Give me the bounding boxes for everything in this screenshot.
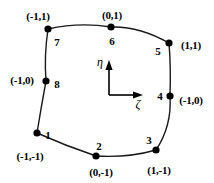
node-number-2: 2 <box>96 141 102 152</box>
zeta-axis-label: ζ <box>136 98 141 110</box>
node-number-4: 4 <box>157 91 163 102</box>
node-number-8: 8 <box>54 79 60 90</box>
element-node-diagram: 1 2 3 4 5 6 7 8 (-1,-1) (0,-1) (1,-1) (-… <box>0 0 214 183</box>
node-dot-7 <box>44 25 51 32</box>
node-dot-8 <box>42 77 49 84</box>
eta-axis-label: η <box>97 56 103 68</box>
node-number-7: 7 <box>54 37 60 48</box>
node-dot-5 <box>165 39 172 46</box>
node-coord-4: (-1,0) <box>179 95 203 106</box>
node-dot-4 <box>166 92 173 99</box>
node-coord-1: (-1,-1) <box>16 151 43 162</box>
node-number-3: 3 <box>146 135 152 146</box>
eta-axis <box>105 60 112 95</box>
node-coord-5: (1,1) <box>181 40 201 51</box>
node-number-5: 5 <box>155 46 161 57</box>
node-number-6: 6 <box>109 36 115 47</box>
node-coord-2: (0,-1) <box>89 167 113 178</box>
node-coord-6: (0,1) <box>102 10 122 21</box>
node-dot-6 <box>107 23 114 30</box>
node-dot-1 <box>33 129 40 136</box>
node-number-1: 1 <box>45 130 51 141</box>
node-coord-7: (-1,1) <box>26 11 50 22</box>
node-dot-2 <box>92 152 99 159</box>
node-dot-3 <box>152 146 159 153</box>
node-coord-3: (1,-1) <box>147 165 171 176</box>
node-coord-8: (-1,0) <box>10 75 34 86</box>
